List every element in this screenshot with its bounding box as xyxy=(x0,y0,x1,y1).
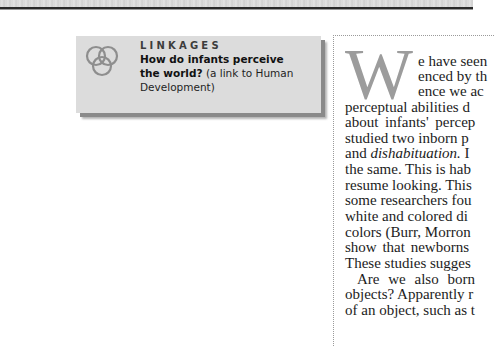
article-line: about infants' percep xyxy=(345,114,475,130)
italic-term: dishabituation. xyxy=(370,145,460,161)
article-line: e have seen xyxy=(418,53,487,69)
three-linked-circles-icon xyxy=(84,43,120,79)
article-line: some researchers fou xyxy=(345,192,472,208)
article-line-tail: I xyxy=(461,145,470,161)
linkages-text-block: LINKAGES How do infants perceive the wor… xyxy=(140,40,316,94)
article-line: and dishabituation. I xyxy=(345,145,470,161)
drop-cap: W xyxy=(345,44,411,104)
article-line: perceptual abilities d xyxy=(345,99,470,115)
article-line: objects? Apparently r xyxy=(345,286,473,302)
article-line: resume looking. This xyxy=(345,177,472,193)
question-note-line-3: Development) xyxy=(140,81,215,93)
article-line: white and colored di xyxy=(345,208,468,224)
question-line-2: the world? xyxy=(140,67,203,79)
page-header-band xyxy=(0,0,473,7)
article-line-text: and xyxy=(345,145,370,161)
article-line: Are we also born xyxy=(357,271,475,287)
article-line: ence we ac xyxy=(418,83,484,99)
article-line: the same. This is hab xyxy=(345,161,471,177)
article-line: of an object, such as t xyxy=(345,302,475,318)
header-rule-shadow xyxy=(0,9,473,10)
article-line: enced by th xyxy=(418,68,487,84)
article-line: colors (Burr, Morron xyxy=(345,224,471,240)
article-line: show that newborns xyxy=(345,239,469,255)
linkages-callout[interactable]: LINKAGES How do infants perceive the wor… xyxy=(76,36,321,113)
article-line: These studies sugges xyxy=(345,255,471,271)
question-line-1: How do infants perceive xyxy=(140,53,284,65)
question-note-line-2: (a link to Human xyxy=(203,67,294,79)
linkages-question[interactable]: How do infants perceive the world? (a li… xyxy=(140,52,316,94)
linkages-title: LINKAGES xyxy=(140,40,316,52)
article-line: studied two inborn p xyxy=(345,130,469,146)
